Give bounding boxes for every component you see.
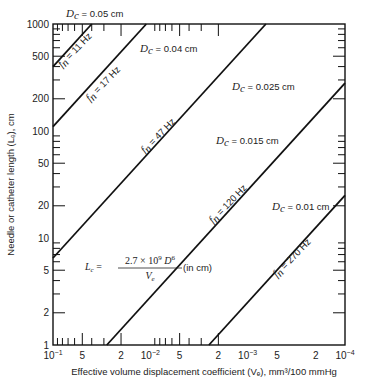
y-tick-label: 2 (43, 307, 49, 318)
y-tick-label: 20 (38, 200, 50, 211)
formula-denominator: Ve (145, 270, 154, 283)
series-line (107, 83, 345, 345)
tick-labels: 10−15210−25210−35210−4100050020010050201… (27, 19, 355, 362)
diameter-label: Dc = 0.025 cm (231, 80, 295, 94)
y-tick-label: 1 (43, 340, 49, 351)
x-axis-title: Effective volume displacement coefficien… (71, 366, 337, 377)
y-tick-label: 200 (32, 93, 49, 104)
x-tick-label: 2 (216, 350, 222, 361)
y-tick-label: 1000 (27, 19, 50, 30)
formula-lhs: Lc = (84, 261, 102, 274)
diameter-label: Dc = 0.04 cm (139, 42, 198, 56)
y-tick-label: 10 (38, 233, 50, 244)
chart: 10−15210−25210−35210−4100050020010050201… (0, 0, 387, 387)
diameter-label: Dc = 0.05 cm (65, 7, 124, 21)
x-tick-label: 5 (274, 350, 280, 361)
plot-frame (53, 24, 345, 345)
x-tick-label: 5 (177, 350, 183, 361)
x-tick-label: 10−1 (43, 349, 62, 361)
x-tick-label: 10−4 (335, 349, 354, 361)
x-tick-label: 5 (80, 350, 86, 361)
x-tick-label: 2 (118, 350, 124, 361)
formula-numerator: 2.7 × 109 D6 (125, 254, 175, 266)
diameter-label: Dc = 0.01 cm (271, 200, 330, 214)
series-lines (53, 24, 345, 345)
y-tick-label: 500 (32, 51, 49, 62)
y-tick-label: 100 (32, 126, 49, 137)
frequency-label: fn = 120 Hz (206, 181, 251, 227)
frequency-text: fn = 17 Hz (83, 63, 124, 105)
diameter-label: Dc = 0.015 cm (215, 134, 279, 148)
y-axis-title: Needle or catheter length (Lₑ), cm (5, 113, 16, 255)
frequency-text: fn = 11 Hz (55, 30, 95, 71)
frequency-text: fn = 120 Hz (206, 181, 251, 227)
y-tick-label: 5 (43, 265, 49, 276)
frequency-label: fn = 11 Hz (55, 30, 95, 71)
frequency-text: fn = 47 Hz (138, 115, 179, 157)
frequency-label: fn = 270 Hz (270, 235, 315, 281)
formula-units: (in cm) (183, 262, 212, 273)
frequency-label: fn = 17 Hz (83, 63, 124, 105)
series-line (53, 24, 146, 127)
frequency-text: fn = 270 Hz (270, 235, 315, 281)
y-tick-label: 50 (38, 158, 50, 169)
x-tick-label: 10−3 (238, 349, 257, 361)
frequency-label: fn = 47 Hz (138, 115, 179, 157)
ticks (53, 24, 345, 345)
x-tick-label: 10−2 (141, 349, 160, 361)
x-tick-label: 2 (313, 350, 319, 361)
